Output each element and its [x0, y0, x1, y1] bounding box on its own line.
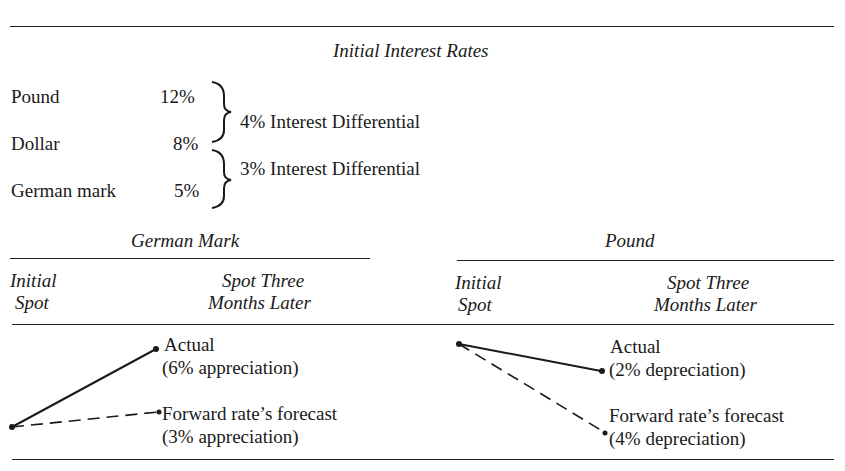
actual-value: (2% depreciation) — [609, 359, 746, 381]
col-initial-line2: Spot — [458, 294, 492, 316]
bottom-rule — [12, 459, 834, 460]
col-initial-line2: Spot — [15, 292, 49, 314]
col-later-line2: Months Later — [654, 294, 757, 316]
brace-icon — [212, 150, 231, 208]
col-later-line1: Spot Three — [222, 270, 304, 292]
differential-label: 4% Interest Differential — [240, 111, 420, 133]
initial-spot-point — [9, 424, 15, 430]
panel-title-rule — [457, 260, 834, 261]
header-bottom-rule — [12, 324, 834, 325]
forecast-point — [603, 431, 608, 436]
panel-title: Pound — [605, 230, 655, 252]
col-initial-line1: Initial — [10, 270, 56, 292]
forecast-label: Forward rate’s forecast — [162, 403, 337, 425]
actual-label: Actual — [164, 334, 215, 356]
panel-title: German Mark — [131, 230, 239, 252]
forecast-point — [157, 410, 162, 415]
forecast-label: Forward rate’s forecast — [609, 405, 784, 427]
diagram-graphics — [0, 0, 845, 471]
col-later-line2: Months Later — [208, 292, 311, 314]
differential-label: 3% Interest Differential — [240, 158, 420, 180]
actual-point — [599, 368, 605, 374]
actual-value: (6% appreciation) — [162, 357, 299, 379]
col-initial-line1: Initial — [455, 272, 501, 294]
actual-line — [12, 349, 156, 427]
col-later-line1: Spot Three — [667, 272, 749, 294]
panel-title-rule — [10, 258, 370, 259]
actual-label: Actual — [610, 336, 661, 358]
forecast-value: (4% depreciation) — [609, 428, 746, 450]
forecast-value: (3% appreciation) — [162, 426, 299, 448]
actual-point — [153, 346, 159, 352]
initial-spot-point — [456, 341, 462, 347]
brace-icon — [212, 82, 231, 142]
